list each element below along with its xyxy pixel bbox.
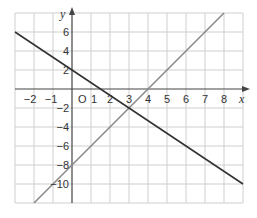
origin-label: O xyxy=(78,93,87,105)
svg-text:−8: −8 xyxy=(56,159,69,171)
x-axis-label: x xyxy=(238,92,245,106)
svg-text:7: 7 xyxy=(202,93,208,105)
x-tick-labels: −2 −1 1 2 3 4 5 6 7 8 xyxy=(24,93,227,105)
svg-text:−4: −4 xyxy=(56,121,69,133)
svg-text:2: 2 xyxy=(63,64,69,76)
svg-text:1: 1 xyxy=(91,93,97,105)
svg-text:6: 6 xyxy=(183,93,189,105)
svg-text:−10: −10 xyxy=(50,178,69,190)
coordinate-plane: y x O −2 −1 1 2 3 4 5 6 7 8 6 4 2 −2 −4 … xyxy=(0,0,257,218)
svg-text:8: 8 xyxy=(221,93,227,105)
svg-text:4: 4 xyxy=(63,45,69,57)
y-axis-arrow-icon xyxy=(69,7,75,15)
svg-text:2: 2 xyxy=(107,93,113,105)
svg-text:−1: −1 xyxy=(45,93,58,105)
svg-text:5: 5 xyxy=(164,93,170,105)
y-axis-label: y xyxy=(59,7,66,21)
svg-text:6: 6 xyxy=(63,26,69,38)
svg-text:−2: −2 xyxy=(24,93,37,105)
svg-text:3: 3 xyxy=(126,93,132,105)
svg-text:−2: −2 xyxy=(56,102,69,114)
svg-text:−6: −6 xyxy=(56,140,69,152)
svg-text:4: 4 xyxy=(145,93,151,105)
